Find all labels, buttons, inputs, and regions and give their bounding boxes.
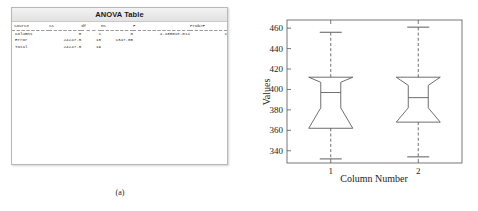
table-header-row: Source SS df MS F Prob>F bbox=[12, 22, 227, 31]
y-tick-label: 460 bbox=[270, 23, 284, 33]
box-outline bbox=[309, 77, 353, 128]
anova-table: Source SS df MS F Prob>F Columns 0 1 0 4 bbox=[12, 22, 227, 50]
box-series-group bbox=[309, 27, 441, 159]
table-row: Columns 0 1 0 4.18801e-011 1 bbox=[12, 31, 227, 38]
figure-panel-b: 340360380400420440460 12 Values Column N… bbox=[250, 0, 478, 211]
cell-ss: 24247.5 bbox=[49, 44, 81, 50]
column-header-f: F bbox=[133, 22, 190, 31]
cell-prob-f: 1 bbox=[190, 31, 227, 38]
anova-table-body: Source SS df MS F Prob>F Columns 0 1 0 4 bbox=[12, 22, 227, 164]
column-header-prob-f: Prob>F bbox=[190, 22, 227, 31]
cell-df: 1 bbox=[81, 31, 101, 38]
x-tick-label: 1 bbox=[329, 166, 334, 176]
boxplot-chart: 340360380400420440460 12 Values Column N… bbox=[250, 0, 478, 200]
cell-source: Total bbox=[12, 44, 49, 50]
y-tick-label: 360 bbox=[270, 125, 284, 135]
x-tick-label: 2 bbox=[416, 166, 421, 176]
box-group-2 bbox=[396, 27, 440, 157]
cell-f bbox=[133, 44, 190, 50]
anova-window-title: ANOVA Table bbox=[95, 11, 143, 19]
box-outline bbox=[396, 77, 440, 122]
y-tick-label: 420 bbox=[270, 64, 284, 74]
cell-ms bbox=[101, 44, 133, 50]
cell-source: Columns bbox=[12, 31, 49, 38]
y-axis-title: Values bbox=[261, 79, 272, 106]
box-group-1 bbox=[309, 32, 353, 159]
column-header-df: df bbox=[81, 22, 101, 31]
x-axis-title: Column Number bbox=[340, 173, 408, 184]
cell-df: 19 bbox=[81, 44, 101, 50]
cell-ms: 0 bbox=[101, 31, 133, 38]
cell-ss: 0 bbox=[49, 31, 81, 38]
cell-f: 4.18801e-011 bbox=[133, 31, 190, 38]
table-row: Total 24247.5 19 bbox=[12, 44, 227, 50]
column-header-ss: SS bbox=[49, 22, 81, 31]
anova-table-window: ANOVA Table Source SS df MS F Prob>F C bbox=[11, 7, 228, 165]
y-tick-label: 380 bbox=[270, 105, 284, 115]
plot-frame bbox=[287, 20, 462, 163]
y-axis: 340360380400420440460 bbox=[270, 23, 292, 156]
x-axis: 12 bbox=[329, 20, 421, 176]
anova-window-titlebar: ANOVA Table bbox=[12, 8, 227, 22]
cell-prob-f bbox=[190, 44, 227, 50]
column-header-source: Source bbox=[12, 22, 49, 31]
y-tick-label: 340 bbox=[270, 146, 284, 156]
figure-panel-a: ANOVA Table Source SS df MS F Prob>F C bbox=[0, 0, 240, 211]
y-tick-label: 440 bbox=[270, 44, 284, 54]
column-header-ms: MS bbox=[101, 22, 133, 31]
figure-caption-a: (a) bbox=[0, 188, 240, 197]
